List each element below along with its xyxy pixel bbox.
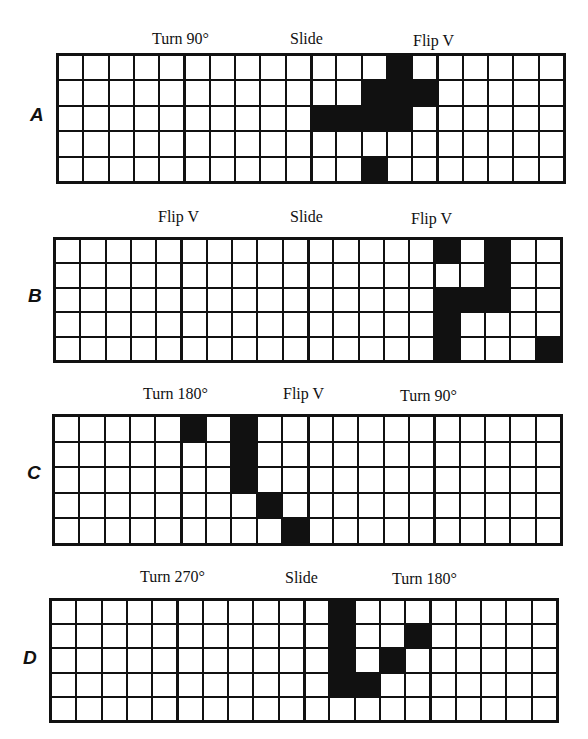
grid-cell xyxy=(388,132,411,155)
grid-cell xyxy=(360,289,383,311)
grid-cell xyxy=(283,443,306,467)
grid-cell xyxy=(310,240,332,262)
grid-cell xyxy=(135,56,158,79)
grid-cell xyxy=(81,264,104,286)
grid-cell xyxy=(261,158,284,181)
grid-cell xyxy=(110,81,133,104)
grid-cell xyxy=(153,698,176,720)
grid-cell xyxy=(258,417,281,441)
grid-cell xyxy=(55,494,78,518)
grid-cell xyxy=(533,674,556,696)
grid-cell xyxy=(59,158,82,181)
grid-cell xyxy=(464,107,487,130)
grid-cell xyxy=(540,158,563,181)
transformation-1: Flip V xyxy=(158,208,199,226)
grid-cell xyxy=(208,240,231,262)
grid-cell xyxy=(284,289,307,311)
grid-cell xyxy=(208,289,231,311)
grid-cell xyxy=(313,56,335,79)
grid-cell xyxy=(537,519,560,543)
grid-cell xyxy=(360,240,383,262)
grid-cell xyxy=(56,313,79,335)
grid-cell xyxy=(77,625,100,647)
grid-cell xyxy=(511,494,534,518)
grid-cell xyxy=(157,240,180,262)
grid-cell xyxy=(55,468,78,492)
grid-cell xyxy=(334,240,357,262)
grid-cell xyxy=(310,494,332,518)
grid-cell xyxy=(507,601,530,623)
grid-cell xyxy=(179,698,201,720)
grid-cell xyxy=(439,132,461,155)
grid-cell xyxy=(537,494,560,518)
grid-cell xyxy=(106,443,129,467)
grid-cell xyxy=(103,601,126,623)
transformation-3: Flip V xyxy=(413,32,454,50)
grid-cell xyxy=(464,132,487,155)
grid-cell xyxy=(132,240,155,262)
grid-cell xyxy=(537,240,560,262)
grid-cell xyxy=(211,132,234,155)
grid-cell xyxy=(489,81,512,104)
grid-cell xyxy=(77,649,100,671)
grid-cell xyxy=(310,519,332,543)
grid-cell xyxy=(410,494,433,518)
grid-cell xyxy=(385,338,408,360)
grid-cell xyxy=(436,264,458,286)
grid-cell xyxy=(55,519,78,543)
grid-cell xyxy=(81,289,104,311)
grid-cell xyxy=(306,649,328,671)
grid-cell xyxy=(432,649,454,671)
grid-cell xyxy=(59,132,82,155)
grid-cell xyxy=(461,264,484,286)
row-label: C xyxy=(27,462,41,484)
grid-cell xyxy=(310,468,332,492)
grid-cell xyxy=(432,698,454,720)
grid-cell xyxy=(461,519,484,543)
grid-cell xyxy=(334,338,357,360)
grid-cell-filled xyxy=(363,107,386,130)
grid-cell xyxy=(457,625,480,647)
grid-cell xyxy=(514,132,537,155)
grid-cell xyxy=(486,338,509,360)
grid-cell xyxy=(360,338,383,360)
grid-cell xyxy=(280,698,303,720)
grid-cell xyxy=(385,289,408,311)
transformation-3: Turn 90° xyxy=(400,387,457,405)
grid-cell xyxy=(233,240,256,262)
grid-cell xyxy=(135,158,158,181)
grid-cell-filled xyxy=(461,289,484,311)
grid-cell xyxy=(229,649,252,671)
grid-cell xyxy=(56,240,79,262)
grid-cell xyxy=(80,417,103,441)
grid-cell xyxy=(385,240,408,262)
grid-cell xyxy=(233,264,256,286)
grid-cell-filled xyxy=(183,417,205,441)
grid-cell xyxy=(334,264,357,286)
grid-cell-filled xyxy=(232,468,255,492)
transformation-3: Flip V xyxy=(411,210,452,228)
grid-cell xyxy=(310,443,332,467)
grid-cell-filled xyxy=(406,625,429,647)
grid-cell xyxy=(207,443,230,467)
grid-cell xyxy=(489,56,512,79)
grid-cell xyxy=(52,625,75,647)
grid-cell xyxy=(84,107,107,130)
grid-cell xyxy=(511,240,534,262)
grid-cell xyxy=(204,601,227,623)
grid-cell xyxy=(313,158,335,181)
grid-cell xyxy=(236,56,259,79)
grid-cell xyxy=(229,698,252,720)
grid-cell xyxy=(160,81,183,104)
grid-cell xyxy=(211,158,234,181)
grid-cell xyxy=(284,338,307,360)
grid-cell-filled xyxy=(283,519,306,543)
grid-cell xyxy=(254,625,277,647)
grid-cell xyxy=(330,698,353,720)
grid-cell xyxy=(283,417,306,441)
grid-cell xyxy=(334,417,357,441)
grid-cell xyxy=(334,443,357,467)
grid-cell-filled xyxy=(330,625,353,647)
grid-cell xyxy=(204,649,227,671)
grid-cell xyxy=(381,674,404,696)
